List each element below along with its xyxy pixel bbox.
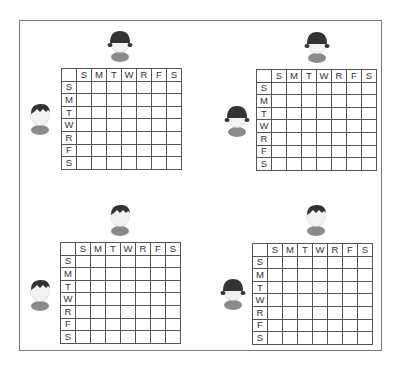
table-row: R (253, 306, 373, 319)
grid-cell (92, 106, 107, 119)
grid-cell (287, 158, 302, 171)
table-row: M (257, 95, 377, 108)
column-header: S (166, 243, 181, 256)
grid-cell (358, 332, 373, 345)
grid-cell (106, 318, 121, 331)
grid-cell (137, 106, 152, 119)
grid-cell (268, 281, 283, 294)
grid-cell (77, 119, 92, 132)
grid-cell (362, 95, 377, 108)
grid-cell (313, 281, 328, 294)
column-header: R (332, 70, 347, 83)
grid-cell (328, 319, 343, 332)
column-header: S (272, 70, 287, 83)
grid-cell (358, 306, 373, 319)
row-header: W (253, 294, 268, 307)
column-header: F (347, 70, 362, 83)
grid-cell (313, 319, 328, 332)
grid-cell (347, 107, 362, 120)
table-row: F (257, 145, 377, 158)
grid-cell (106, 293, 121, 306)
table-row: S (62, 81, 182, 94)
boy-icon (26, 277, 54, 311)
column-header: M (91, 243, 106, 256)
grid-cell (77, 94, 92, 107)
schedule-grid-bottom-right: SMTWRFSSMTWRFS (252, 243, 373, 345)
column-header: T (298, 244, 313, 257)
grid-cell (343, 332, 358, 345)
grid-cell (76, 268, 91, 281)
column-header: T (302, 70, 317, 83)
grid-cell (358, 269, 373, 282)
row-header: S (253, 332, 268, 345)
row-header: S (61, 255, 76, 268)
row-header: F (61, 318, 76, 331)
grid-cell (362, 107, 377, 120)
grid-cell (106, 255, 121, 268)
girl-icon (223, 103, 251, 137)
girl-icon (219, 276, 247, 310)
grid-cell (283, 319, 298, 332)
table-row: T (61, 280, 181, 293)
grid-cell (152, 131, 167, 144)
table-row: F (253, 319, 373, 332)
grid-cell (313, 256, 328, 269)
grid-cell (313, 306, 328, 319)
grid-cell (121, 255, 136, 268)
grid-cell (302, 132, 317, 145)
grid-cell (317, 158, 332, 171)
grid-cell (166, 268, 181, 281)
grid-cell (151, 280, 166, 293)
grid-cell (358, 319, 373, 332)
column-header: S (76, 243, 91, 256)
grid-cell (362, 82, 377, 95)
grid-cell (358, 281, 373, 294)
grid-cell (343, 294, 358, 307)
grid-cell (151, 255, 166, 268)
grid-cell (268, 294, 283, 307)
grid-cell (121, 305, 136, 318)
table-row: S (62, 157, 182, 170)
schedule-grid-top-right: SMTWRFSSMTWRFS (256, 69, 377, 171)
grid-cell (107, 119, 122, 132)
row-header: T (257, 107, 272, 120)
grid-cell (76, 305, 91, 318)
boy-icon (106, 202, 134, 236)
grid-cell (298, 319, 313, 332)
grid-cell (268, 306, 283, 319)
grid-cell (167, 131, 182, 144)
grid-cell (136, 331, 151, 344)
column-header: R (136, 243, 151, 256)
row-header: F (257, 145, 272, 158)
column-header: S (167, 69, 182, 82)
grid-cell (287, 107, 302, 120)
grid-cell (77, 106, 92, 119)
row-header: S (257, 82, 272, 95)
grid-cell (332, 132, 347, 145)
grid-cell (91, 280, 106, 293)
grid-cell (167, 119, 182, 132)
grid-cell (107, 157, 122, 170)
table-row: T (253, 281, 373, 294)
grid-cell (107, 94, 122, 107)
grid-cell (122, 157, 137, 170)
grid-cell (283, 281, 298, 294)
grid-cell (283, 294, 298, 307)
grid-cell (332, 107, 347, 120)
grid-cell (343, 281, 358, 294)
table-row: S (257, 82, 377, 95)
grid-cell (347, 95, 362, 108)
grid-cell (272, 132, 287, 145)
grid-cell (313, 269, 328, 282)
grid-cell (332, 145, 347, 158)
girl-icon (106, 28, 134, 62)
row-header: S (61, 331, 76, 344)
grid-cell (283, 256, 298, 269)
grid-cell (76, 331, 91, 344)
grid-cell (358, 256, 373, 269)
grid-cell (91, 255, 106, 268)
grid-cell (122, 81, 137, 94)
grid-cell (136, 255, 151, 268)
grid-cell (136, 293, 151, 306)
grid-cell (302, 145, 317, 158)
